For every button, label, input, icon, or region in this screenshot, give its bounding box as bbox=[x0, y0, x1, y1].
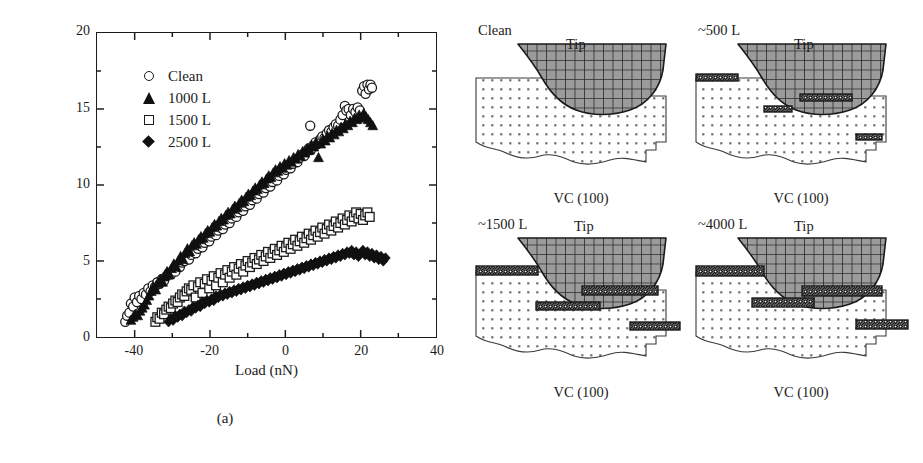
surface-label: VC (100) bbox=[470, 190, 692, 207]
surface-label: VC (100) bbox=[470, 384, 692, 401]
chart-legend: Clean 1000 L 1500 L 2500 L bbox=[140, 66, 211, 154]
exposure-label: ~4000 L bbox=[698, 216, 747, 233]
schematic-drawing bbox=[690, 216, 912, 412]
schematic-1500l: ~1500 L Tip VC (100) bbox=[470, 216, 692, 412]
legend-label: 1500 L bbox=[162, 112, 211, 129]
legend-label: 1000 L bbox=[162, 90, 211, 107]
schematic-500l: ~500 L Tip VC (100) bbox=[690, 22, 912, 218]
y-tick-label: 15 bbox=[56, 101, 90, 115]
filled-triangle-icon bbox=[140, 89, 162, 107]
legend-item-clean: Clean bbox=[140, 66, 211, 86]
y-tick-label: 0 bbox=[56, 330, 90, 344]
exposure-label: ~500 L bbox=[698, 22, 740, 39]
panel-b-schematics: Clean Tip VC (100) ~500 L Tip VC (100) ~… bbox=[460, 0, 923, 463]
x-axis-title: Load (nN) bbox=[96, 362, 437, 379]
y-tick-label: 20 bbox=[56, 24, 90, 38]
schematic-4000l: ~4000 L Tip VC (100) bbox=[690, 216, 912, 412]
x-tick-label: -20 bbox=[186, 344, 234, 358]
open-circle-icon bbox=[140, 67, 162, 85]
tip-label: Tip bbox=[574, 218, 594, 235]
schematic-drawing bbox=[470, 216, 692, 412]
legend-item-1000l: 1000 L bbox=[140, 88, 211, 108]
tip-label: Tip bbox=[794, 36, 814, 53]
exposure-label: ~1500 L bbox=[478, 216, 527, 233]
legend-label: Clean bbox=[162, 68, 203, 85]
exposure-label: Clean bbox=[478, 22, 512, 39]
panel-a-scatter-plot: Friction (nN) 05101520 -40-2002040 Load … bbox=[0, 0, 460, 463]
legend-label: 2500 L bbox=[162, 134, 211, 151]
schematic-clean: Clean Tip VC (100) bbox=[470, 22, 692, 218]
y-tick-label: 10 bbox=[56, 177, 90, 191]
x-tick-label: 40 bbox=[413, 344, 461, 358]
y-tick-label: 5 bbox=[56, 254, 90, 268]
figure-root: Friction (nN) 05101520 -40-2002040 Load … bbox=[0, 0, 923, 463]
x-tick-label: 20 bbox=[337, 344, 385, 358]
x-tick-label: 0 bbox=[261, 344, 309, 358]
y-axis-tick-labels: 05101520 bbox=[52, 0, 90, 370]
legend-item-1500l: 1500 L bbox=[140, 110, 211, 130]
filled-diamond-icon bbox=[140, 133, 162, 151]
surface-label: VC (100) bbox=[690, 190, 912, 207]
open-square-icon bbox=[140, 111, 162, 129]
x-tick-label: -40 bbox=[110, 344, 158, 358]
legend-item-2500l: 2500 L bbox=[140, 132, 211, 152]
subfigure-caption-a: (a) bbox=[195, 410, 255, 427]
tip-label: Tip bbox=[566, 36, 586, 53]
tip-label: Tip bbox=[794, 218, 814, 235]
surface-label: VC (100) bbox=[690, 384, 912, 401]
